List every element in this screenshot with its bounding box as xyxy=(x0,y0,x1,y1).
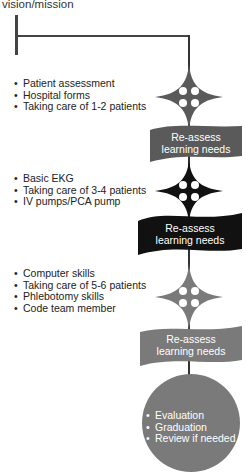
stage-3-item: Computer skills xyxy=(14,268,146,280)
stage-3-item: Phlebotomy skills xyxy=(14,291,146,303)
stage-3-item: Code team member xyxy=(14,303,146,315)
stage-2-reassess-banner: Re-assess learning needs xyxy=(138,213,242,255)
stage-2-list: Basic EKG Taking care of 3-4 patients IV… xyxy=(14,173,146,208)
stage-1-reassess-banner: Re-assess learning needs xyxy=(150,124,242,162)
banner-2-line-1: Re-assess xyxy=(138,223,242,235)
final-outcome-list: Evaluation Graduation Review if needed xyxy=(146,410,236,445)
interchange-star-3-icon xyxy=(155,264,223,330)
stage-1-item: Taking care of 1-2 patients xyxy=(14,101,146,113)
vision-mission-label: vision/mission xyxy=(2,0,74,10)
stage-2-item: Basic EKG xyxy=(14,173,146,185)
stage-2-item: IV pumps/PCA pump xyxy=(14,196,146,208)
banner-3-line-2: learning needs xyxy=(140,346,242,358)
stage-3-list: Computer skills Taking care of 5-6 patie… xyxy=(14,268,146,314)
stage-1-item: Patient assessment xyxy=(14,78,146,90)
banner-1-line-1: Re-assess xyxy=(150,132,242,144)
top-horizontal-connector xyxy=(15,35,190,37)
final-item: Review if needed xyxy=(146,433,236,445)
banner-3-line-1: Re-assess xyxy=(140,334,242,346)
final-item: Evaluation xyxy=(146,410,236,422)
banner-1-line-2: learning needs xyxy=(150,144,242,156)
stage-1-list: Patient assessment Hospital forms Taking… xyxy=(14,78,146,113)
interchange-star-1-icon xyxy=(155,64,223,130)
final-outcome-circle: Evaluation Graduation Review if needed xyxy=(142,374,240,472)
stage-3-reassess-banner: Re-assess learning needs xyxy=(140,326,242,366)
banner-2-line-2: learning needs xyxy=(138,235,242,247)
